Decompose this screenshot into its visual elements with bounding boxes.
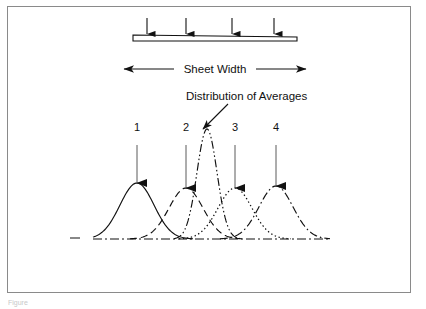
sheet-width-label: Sheet Width [184, 63, 247, 75]
curve-number-label-1: 1 [134, 121, 140, 133]
distribution-plot: 1234 [70, 121, 330, 239]
curve-number-label-group: 1234 [134, 121, 279, 133]
distribution-of-averages-label: Distribution of Averages [186, 90, 307, 102]
diagram-canvas: Sheet Width Distribution of Averages 123… [0, 0, 426, 309]
curve-number-label-2: 2 [183, 121, 189, 133]
curve-number-label-4: 4 [273, 121, 279, 133]
figure-root: Sheet Width Distribution of Averages 123… [0, 0, 426, 309]
sheet-bar [133, 35, 297, 41]
distribution-leader-line [203, 104, 228, 129]
figure-caption-fragment: Figure [8, 298, 308, 308]
sheet-width-dimension: Sheet Width [124, 63, 306, 75]
sheet-load-arrow-group [147, 18, 274, 34]
distribution-curve-3 [174, 129, 240, 239]
distribution-annotation: Distribution of Averages [186, 90, 307, 129]
distribution-curve-2 [130, 188, 242, 239]
curve-pointer-arrow-group [137, 145, 276, 188]
distribution-curve-5 [220, 186, 330, 239]
distribution-curve-group [93, 129, 330, 239]
sheet-bar-group [133, 18, 297, 41]
curve-number-label-3: 3 [232, 121, 238, 133]
distribution-curve-1 [93, 183, 193, 239]
